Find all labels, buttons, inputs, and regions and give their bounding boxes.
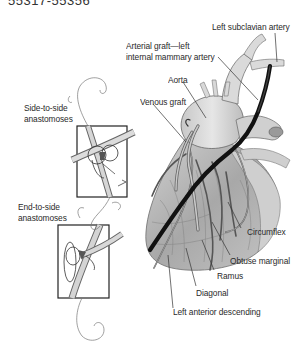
label-arterial-graft-line2: internal mammary artery (126, 51, 215, 62)
suture-curls (68, 78, 120, 341)
label-diagonal: Diagonal (196, 287, 228, 298)
cabg-diagram: 55317-55356 (0, 0, 307, 348)
label-side-to-side-line1: Side-to-side (24, 102, 68, 113)
label-circumflex: Circumflex (247, 226, 286, 237)
label-end-to-side-line2: anastomoses (18, 212, 67, 223)
label-left-subclavian-artery: Left subclavian artery (212, 21, 290, 32)
label-aorta: Aorta (168, 74, 188, 85)
label-side-to-side-line2: anastomoses (24, 113, 73, 124)
label-left-anterior-descending: Left anterior descending (173, 306, 261, 317)
label-obtuse-marginal: Obtuse marginal (230, 255, 290, 266)
label-end-to-side-line1: End-to-side (18, 201, 60, 212)
label-ramus: Ramus (217, 270, 243, 281)
side-to-side-inset (72, 126, 134, 197)
end-to-side-inset (58, 225, 122, 298)
label-venous-graft: Venous graft (140, 96, 186, 107)
label-arterial-graft-line1: Arterial graft—left (126, 40, 189, 51)
